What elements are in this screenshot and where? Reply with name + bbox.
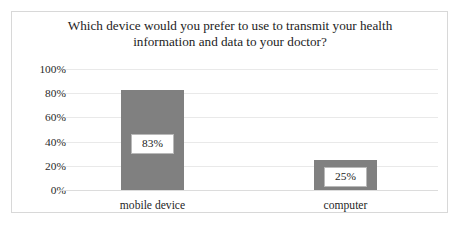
y-axis-tick-label-60: 60% bbox=[6, 112, 66, 123]
y-axis-tick-label-20: 20% bbox=[6, 161, 66, 172]
gridline-40 bbox=[58, 142, 438, 143]
y-axis-tick-label-40: 40% bbox=[6, 137, 66, 148]
plot-area: 100% 80% 60% 40% 20% 0% 83% 25% mobile d… bbox=[12, 12, 447, 212]
x-axis-tick-label-computer: computer bbox=[295, 199, 396, 212]
gridline-20 bbox=[58, 166, 438, 167]
bar-value-label-mobile-device: 83% bbox=[131, 134, 174, 154]
y-axis-tick-label-0: 0% bbox=[6, 185, 66, 196]
chart-container: Which device would you prefer to use to … bbox=[11, 11, 448, 213]
x-axis-line bbox=[58, 190, 438, 191]
gridline-80 bbox=[58, 93, 438, 94]
x-axis-tick-label-mobile-device: mobile device bbox=[102, 199, 203, 212]
gridline-100 bbox=[58, 69, 438, 70]
gridline-60 bbox=[58, 117, 438, 118]
y-axis-tick-label-80: 80% bbox=[6, 88, 66, 99]
bar-value-label-computer: 25% bbox=[324, 167, 367, 187]
y-axis-tick-label-100: 100% bbox=[6, 64, 66, 75]
